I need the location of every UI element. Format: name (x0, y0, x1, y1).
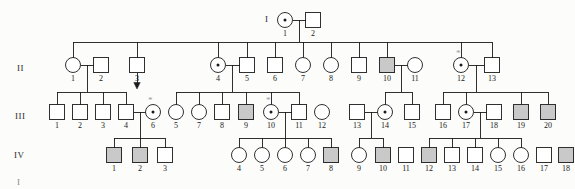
asterisk-marker: * (266, 95, 271, 105)
female-symbol[interactable] (324, 58, 339, 73)
individual-III-15[interactable]: 15 (405, 105, 420, 131)
individual-IV-6[interactable]: 6 (278, 148, 293, 174)
female-symbol[interactable] (169, 105, 184, 120)
individual-III-3[interactable]: 3 (96, 105, 111, 131)
male-symbol[interactable] (50, 105, 65, 120)
individual-II-10[interactable]: 10 (380, 58, 395, 84)
individual-IV-10[interactable]: 10 (376, 148, 391, 174)
individual-IV-8[interactable]: 8 (324, 148, 339, 174)
individual-IV-7[interactable]: 7 (301, 148, 316, 174)
male-symbol[interactable] (485, 58, 500, 73)
individual-IV-14[interactable]: 14 (468, 148, 483, 174)
individual-III-5[interactable]: 5 (169, 105, 184, 131)
individual-IV-13[interactable]: 13 (445, 148, 460, 174)
individual-III-2[interactable]: 2 (73, 105, 88, 131)
individual-III-8[interactable]: 8 (215, 105, 230, 131)
female-symbol[interactable] (352, 148, 367, 163)
affected-male-symbol[interactable] (514, 105, 529, 120)
male-symbol[interactable] (130, 58, 145, 73)
individual-I-2[interactable]: 2 (306, 13, 321, 39)
individual-II-6[interactable]: 6 (268, 58, 283, 84)
individual-IV-5[interactable]: 5 (255, 148, 270, 174)
female-symbol[interactable] (301, 148, 316, 163)
individual-III-12[interactable]: 12 (315, 105, 330, 131)
affected-male-symbol[interactable] (376, 148, 391, 163)
individual-III-4[interactable]: 4 (119, 105, 134, 131)
individual-II-2[interactable]: 2 (94, 58, 109, 84)
individual-IV-18[interactable]: 18 (559, 148, 574, 174)
female-symbol[interactable] (278, 148, 293, 163)
affected-male-symbol[interactable] (541, 105, 556, 120)
individual-III-1[interactable]: 1 (50, 105, 65, 131)
affected-male-symbol[interactable] (239, 105, 254, 120)
male-symbol[interactable] (268, 58, 283, 73)
individual-number-label: 12 (425, 164, 433, 173)
male-symbol[interactable] (158, 148, 173, 163)
individual-III-14[interactable]: 14 (378, 105, 393, 131)
individual-II-9[interactable]: 9 (352, 58, 367, 84)
female-symbol[interactable] (514, 148, 529, 163)
male-symbol[interactable] (487, 105, 502, 120)
individual-II-4[interactable]: 4 (211, 58, 226, 84)
affected-male-symbol[interactable] (559, 148, 574, 163)
individual-III-13[interactable]: 13 (350, 105, 365, 131)
individual-III-6[interactable]: *6 (146, 95, 161, 130)
male-symbol[interactable] (96, 105, 111, 120)
male-symbol[interactable] (399, 148, 414, 163)
female-symbol[interactable] (255, 148, 270, 163)
individual-II-5[interactable]: 5 (240, 58, 255, 84)
affected-male-symbol[interactable] (422, 148, 437, 163)
individual-IV-11[interactable]: 11 (399, 148, 414, 174)
affected-male-symbol[interactable] (324, 148, 339, 163)
individual-III-19[interactable]: 19 (514, 105, 529, 131)
individual-II-8[interactable]: 8 (324, 58, 339, 84)
male-symbol[interactable] (350, 105, 365, 120)
affected-male-symbol[interactable] (107, 148, 122, 163)
individual-III-9[interactable]: 9 (239, 105, 254, 131)
individual-IV-15[interactable]: 15 (491, 148, 506, 174)
male-symbol[interactable] (352, 58, 367, 73)
individual-IV-9[interactable]: 9 (352, 148, 367, 174)
female-symbol[interactable] (192, 105, 207, 120)
individual-III-18[interactable]: 18 (487, 105, 502, 131)
male-symbol[interactable] (306, 13, 321, 28)
affected-male-symbol[interactable] (133, 148, 148, 163)
female-symbol[interactable] (491, 148, 506, 163)
individual-III-11[interactable]: 11 (292, 105, 307, 131)
individual-III-7[interactable]: 7 (192, 105, 207, 131)
male-symbol[interactable] (537, 148, 552, 163)
female-symbol[interactable] (296, 58, 311, 73)
male-symbol[interactable] (405, 105, 420, 120)
individual-III-17[interactable]: 17 (459, 105, 474, 131)
male-symbol[interactable] (119, 105, 134, 120)
individual-IV-1[interactable]: 1 (107, 148, 122, 174)
male-symbol[interactable] (468, 148, 483, 163)
individual-III-16[interactable]: 16 (436, 105, 451, 131)
individual-IV-16[interactable]: 16 (514, 148, 529, 174)
female-symbol[interactable] (408, 58, 423, 73)
individual-III-20[interactable]: 20 (541, 105, 556, 131)
individual-IV-4[interactable]: 4 (232, 148, 247, 174)
male-symbol[interactable] (73, 105, 88, 120)
individual-IV-12[interactable]: 12 (422, 148, 437, 174)
male-symbol[interactable] (436, 105, 451, 120)
individual-II-1[interactable]: 1 (66, 58, 81, 84)
individual-I-1[interactable]: 1 (278, 13, 293, 39)
individual-IV-2[interactable]: 2 (133, 148, 148, 174)
individual-II-3[interactable]: 3 (130, 58, 145, 90)
female-symbol[interactable] (66, 58, 81, 73)
individual-II-7[interactable]: 7 (296, 58, 311, 84)
male-symbol[interactable] (240, 58, 255, 73)
individual-II-11[interactable]: 11 (408, 58, 423, 84)
male-symbol[interactable] (445, 148, 460, 163)
individual-IV-3[interactable]: 3 (158, 148, 173, 174)
female-symbol[interactable] (315, 105, 330, 120)
individual-number-label: 11 (295, 121, 303, 130)
female-symbol[interactable] (232, 148, 247, 163)
affected-male-symbol[interactable] (380, 58, 395, 73)
individual-IV-17[interactable]: 17 (537, 148, 552, 174)
male-symbol[interactable] (94, 58, 109, 73)
individual-II-13[interactable]: 13 (485, 58, 500, 84)
male-symbol[interactable] (292, 105, 307, 120)
male-symbol[interactable] (215, 105, 230, 120)
